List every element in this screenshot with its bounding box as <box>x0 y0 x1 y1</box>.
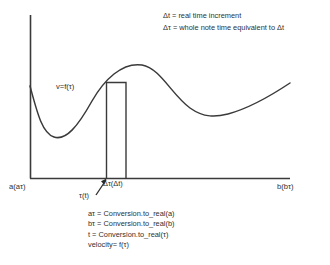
annotation-line-delta-tau: Δτ = whole note time equivalent to Δt <box>163 22 284 34</box>
velocity-curve <box>30 65 290 138</box>
delta-tau-bar <box>107 83 127 179</box>
conversion-line-a-tau: aτ = Conversion.to_real(a) <box>88 209 175 219</box>
conversion-equations-block: aτ = Conversion.to_real(a) bτ = Conversi… <box>88 209 175 251</box>
conversion-line-b-tau: bτ = Conversion.to_real(b) <box>88 219 175 229</box>
delta-tau-label: Δτ(Δt) <box>103 180 123 187</box>
annotation-block: Δt = real time increment Δτ = whole note… <box>163 10 284 33</box>
axis-label-right: b(bτ) <box>277 183 294 191</box>
conversion-line-velocity: velocity= f(τ) <box>88 240 175 250</box>
axis-label-left: a(aτ) <box>9 183 26 191</box>
conversion-line-t: t = Conversion.to_real(τ) <box>88 230 175 240</box>
tau-of-t-label: τ(t) <box>79 192 89 199</box>
annotation-line-delta-t: Δt = real time increment <box>163 10 284 22</box>
curve-label: v=f(τ) <box>56 83 74 91</box>
